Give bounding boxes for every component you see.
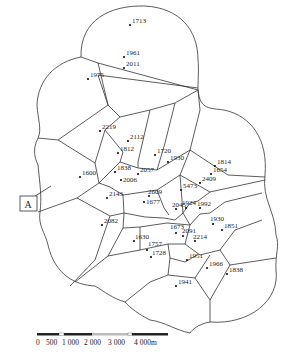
site-label: 1654: [213, 166, 228, 174]
scale-label-2000: 2 000: [84, 338, 101, 347]
site-label: 1677: [146, 198, 161, 206]
site-label: 1930: [170, 154, 185, 162]
site-label: 2082: [104, 217, 119, 225]
site-label: 1838: [117, 164, 132, 172]
marker-a: A: [20, 186, 51, 211]
site-label: 1814: [217, 158, 232, 166]
site-label: 1992: [197, 200, 212, 208]
site-label: 2011: [126, 60, 140, 68]
scale-label-3000: 3 000: [108, 338, 125, 347]
site-label: 2609: [148, 188, 163, 196]
site-points: 1713 1961 2011 1975 2219 2112 1812 1720 …: [79, 17, 244, 287]
scale-label-4000m: 4 000m: [134, 338, 157, 347]
scale-label-0: 0: [36, 338, 40, 347]
site-label: 1728: [152, 249, 167, 257]
site-label: 2409: [202, 175, 217, 183]
site-label: 1812: [120, 145, 135, 153]
outer-boundary: [35, 6, 278, 333]
site-label: 1838: [229, 266, 244, 274]
scale-label-1000: 1 000: [62, 338, 79, 347]
marker-label: A: [25, 199, 33, 210]
site-label: 1600: [82, 169, 97, 177]
site-label: 1713: [132, 17, 147, 25]
scale-bar: 0 500 1 000 2 000 3 000 4 000m: [36, 333, 168, 347]
site-label: 1966: [209, 260, 224, 268]
site-label: 2112: [130, 133, 144, 141]
site-label: 1941: [178, 278, 193, 286]
voronoi-map: 1713 1961 2011 1975 2219 2112 1812 1720 …: [0, 0, 295, 363]
site-label: 2006: [123, 176, 138, 184]
site-label: 2143: [109, 190, 124, 198]
site-label: 1924: [182, 199, 197, 207]
site-label: 1951: [189, 252, 204, 260]
site-label: 1975: [90, 71, 105, 79]
site-label: 5473: [183, 182, 198, 190]
site-label: 2057: [140, 166, 155, 174]
site-label: 1961: [126, 49, 141, 57]
site-label: 2219: [102, 123, 117, 131]
site-label: 1930: [210, 215, 225, 223]
site-label: 2214: [193, 233, 208, 241]
site-label: 1851: [224, 222, 239, 230]
scale-label-500: 500: [46, 338, 58, 347]
site-label: 1757: [148, 240, 163, 248]
